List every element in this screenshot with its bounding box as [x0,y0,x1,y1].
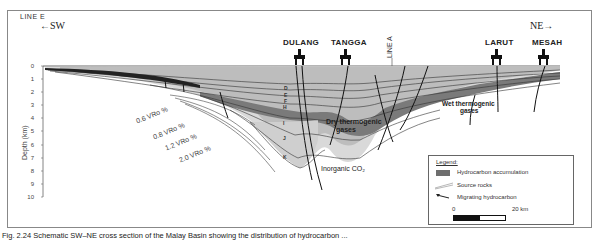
stratum-label: H [283,104,287,110]
figure-caption: Fig. 2.24 Schematic SW–NE cross section … [2,231,348,240]
stratum-label: I [283,120,284,126]
scale-bar-dark [453,215,481,221]
scale-start: 0 [452,206,455,212]
legend-item: Hydrocarbon accumulation [457,169,528,175]
dry-gas-label: Dry thermogenic [326,118,382,125]
legend-item: Source rocks [457,182,492,188]
scale-end: 20 km [512,206,528,212]
hydrocarbon-swatch-icon [436,170,450,176]
migrating-arrow-icon [435,193,453,201]
source-rocks-icon [434,180,454,190]
stratum-label: J [283,135,286,141]
stratum-label: D [284,85,288,91]
scale-bar-light [479,215,506,221]
platform-icon [294,49,549,65]
legend-item: Migrating hydrocarbon [457,194,517,200]
stratum-label: K [283,154,287,160]
dry-gas-label-2: gases [336,126,356,133]
inorganic-co2-label: Inorganic CO₂ [321,165,365,172]
wet-gas-label-2: gases [460,107,478,114]
wet-gas-label: Wet thermogenic [442,100,495,107]
legend: Legend: Hydrocarbon accumulation Source … [428,155,574,225]
legend-title: Legend: [436,159,458,165]
